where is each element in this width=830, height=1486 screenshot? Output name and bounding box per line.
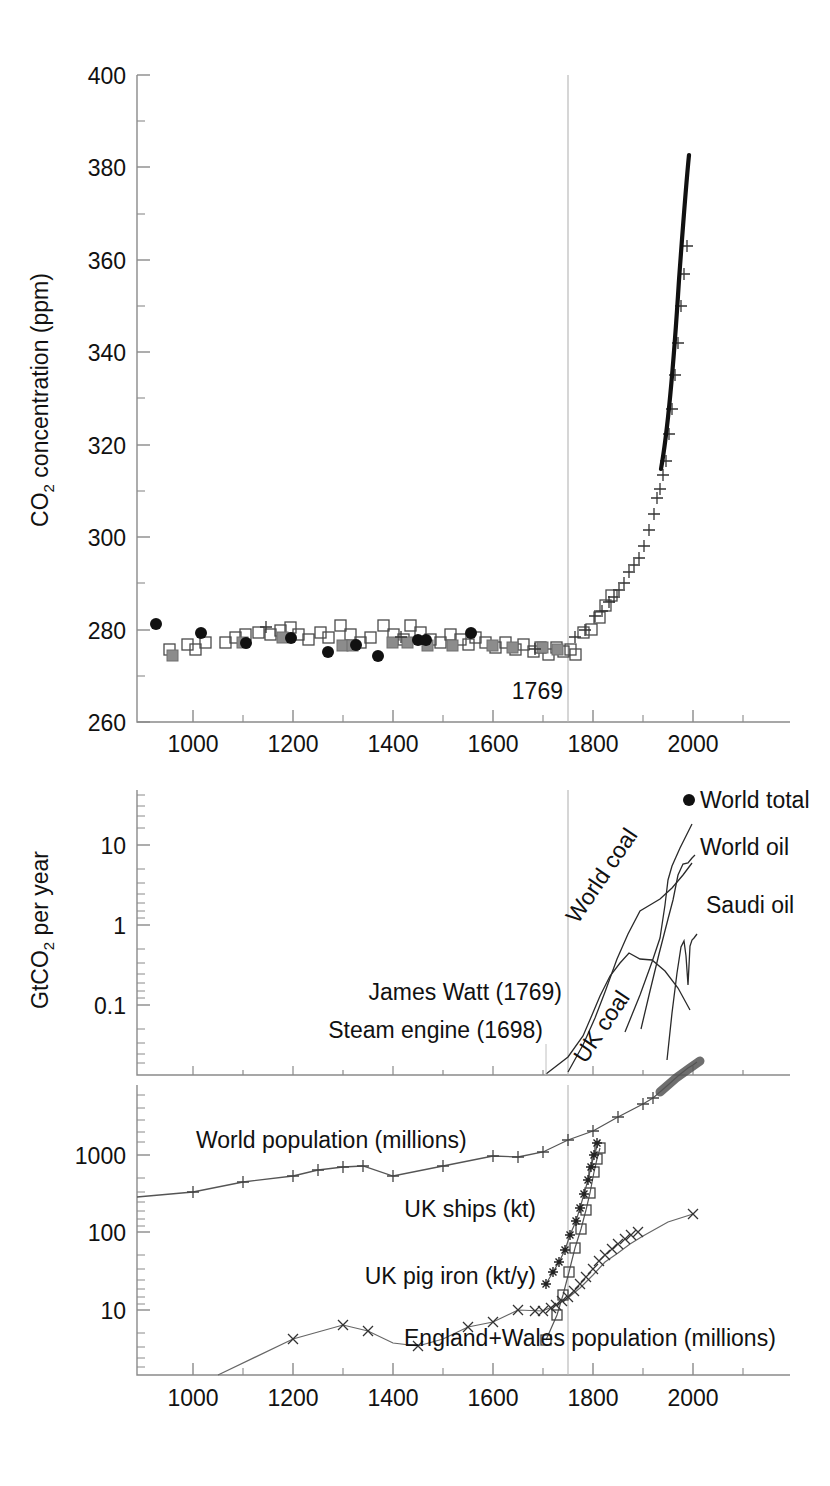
top-xtick-1000: 1000	[167, 731, 218, 757]
bottom-xtick-1600: 1600	[467, 1385, 518, 1411]
label-saudi-oil: Saudi oil	[706, 892, 794, 918]
annotation-steam-engine: Steam engine (1698)	[328, 1017, 543, 1043]
top-ytick-320: 320	[88, 433, 126, 459]
top-xtick-1800: 1800	[567, 731, 618, 757]
bottom-xtick-2000: 2000	[667, 1385, 718, 1411]
label-world-population: World population (millions)	[196, 1127, 467, 1153]
top-xtick-1600: 1600	[467, 731, 518, 757]
world-total-bullet-icon	[683, 794, 695, 806]
annotation-james-watt: James Watt (1769)	[369, 979, 562, 1005]
bottom-xtick-1400: 1400	[367, 1385, 418, 1411]
figure-root: 400 380 360 340 320 300 280 260 CO2 conc…	[0, 0, 830, 1486]
label-world-total: World total	[700, 787, 810, 813]
ylabel-co2-rest: concentration (ppm)	[27, 273, 53, 484]
middle-ytick-1: 1	[113, 913, 126, 939]
svg-text:GtCO2 per year: GtCO2 per year	[27, 851, 57, 1009]
bottom-ytick-100: 100	[88, 1220, 126, 1246]
event-label-1769: 1769	[512, 678, 563, 704]
bottom-ytick-1000: 1000	[75, 1143, 126, 1169]
top-ytick-280: 280	[88, 618, 126, 644]
middle-ytick-10: 10	[100, 833, 126, 859]
middle-panel-ylabel: GtCO2 per year	[27, 851, 57, 1009]
label-uk-pig-iron: UK pig iron (kt/y)	[365, 1263, 536, 1289]
middle-ytick-0.1: 0.1	[94, 993, 126, 1019]
top-ytick-380: 380	[88, 155, 126, 181]
bottom-xtick-1200: 1200	[267, 1385, 318, 1411]
bottom-xtick-1800: 1800	[567, 1385, 618, 1411]
top-xtick-1200: 1200	[267, 731, 318, 757]
top-ytick-260: 260	[88, 710, 126, 736]
ylabel-gtco2-rest: per year	[27, 851, 53, 942]
ylabel-co2-text: CO	[27, 492, 53, 527]
ylabel-co2-subscript: 2	[40, 484, 57, 492]
label-uk-ships: UK ships (kt)	[404, 1196, 536, 1222]
bottom-ytick-10: 10	[100, 1298, 126, 1324]
label-world-oil: World oil	[700, 834, 789, 860]
bottom-xtick-1000: 1000	[167, 1385, 218, 1411]
label-england-wales-population: England+Wales population (millions)	[404, 1325, 776, 1351]
top-xtick-2000: 2000	[667, 731, 718, 757]
top-ytick-340: 340	[88, 340, 126, 366]
ylabel-gtco2-subscript: 2	[40, 942, 57, 950]
ylabel-gtco2-text: GtCO	[27, 950, 53, 1009]
top-xtick-1400: 1400	[367, 731, 418, 757]
top-ytick-360: 360	[88, 248, 126, 274]
top-ytick-300: 300	[88, 525, 126, 551]
co2-and-industrialisation-figure: 400 380 360 340 320 300 280 260 CO2 conc…	[0, 0, 830, 1486]
top-ytick-400: 400	[88, 63, 126, 89]
